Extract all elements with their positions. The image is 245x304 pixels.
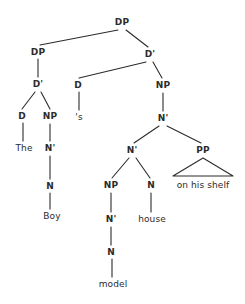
- tree-node-dp-left: DP: [31, 48, 45, 57]
- tree-branch-dbar-right-to-np-right: [153, 62, 162, 78]
- tree-leaf-the: The: [15, 144, 32, 153]
- tree-edge-layer: [22, 30, 201, 277]
- tree-node-pp: PP: [196, 146, 210, 155]
- tree-triangle-layer: [173, 158, 233, 176]
- tree-node-n-house: N: [147, 181, 155, 190]
- tree-leaf-boy: Boy: [43, 212, 60, 221]
- tree-node-dbar-left: D': [33, 80, 44, 89]
- tree-node-n-model: N: [107, 248, 115, 257]
- tree-leaf-poss-s: 's: [75, 113, 82, 122]
- tree-node-nbar-top: N': [158, 114, 169, 123]
- tree-leaf-house: house: [138, 215, 166, 224]
- tree-node-nbar-mid: N': [127, 146, 138, 155]
- tree-node-dp-root: DP: [115, 18, 129, 27]
- tree-branch-dbar-left-to-d-the: [22, 92, 35, 109]
- tree-branch-nbar-mid-to-np-model: [112, 158, 129, 178]
- tree-triangle-pp-to-pp-text: [173, 158, 233, 176]
- tree-branch-dbar-right-to-d-poss: [79, 62, 146, 78]
- tree-node-d-the: D: [18, 112, 26, 121]
- tree-leaf-model: model: [99, 280, 128, 289]
- tree-node-n-boy: N: [46, 182, 54, 191]
- tree-node-nbar-left: N': [45, 144, 56, 153]
- tree-branch-dp-root-to-dbar-right: [126, 30, 148, 47]
- tree-node-np-model: NP: [104, 181, 119, 190]
- tree-node-d-poss: D: [74, 81, 82, 90]
- tree-branch-dp-root-to-dp-left: [40, 30, 118, 45]
- tree-node-dbar-right: D': [145, 50, 156, 59]
- tree-branch-dbar-left-to-np-left: [41, 92, 50, 109]
- tree-branch-nbar-top-to-pp: [167, 126, 201, 143]
- tree-node-nbar-model: N': [106, 215, 117, 224]
- tree-node-np-right: NP: [156, 81, 171, 90]
- tree-branch-nbar-top-to-nbar-mid: [134, 126, 159, 143]
- tree-node-np-left: NP: [43, 112, 58, 121]
- tree-branch-nbar-mid-to-n-house: [136, 158, 150, 178]
- tree-leaf-pp-text: on his shelf: [177, 181, 230, 190]
